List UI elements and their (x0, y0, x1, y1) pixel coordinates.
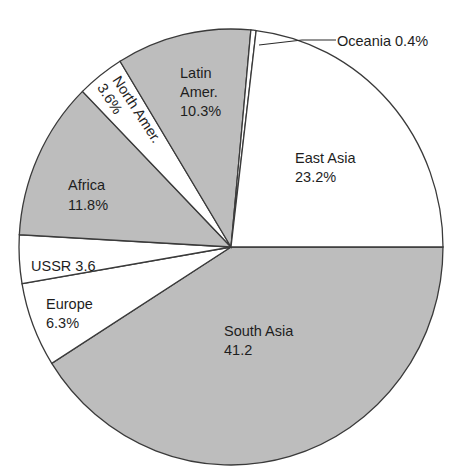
svg-text:Oceania 0.4%: Oceania 0.4% (337, 33, 428, 49)
svg-text:23.2%: 23.2% (295, 169, 336, 185)
svg-text:East Asia: East Asia (295, 150, 356, 166)
svg-text:Africa: Africa (68, 177, 106, 193)
pie-chart: Latin Amer. 10.3% North Amer. 3.6% Afric… (0, 0, 459, 476)
pie-slice-east-asia (231, 31, 443, 247)
svg-text:41.2: 41.2 (224, 342, 252, 358)
svg-text:Amer.: Amer. (180, 84, 218, 100)
svg-text:Europe: Europe (46, 296, 93, 312)
svg-text:Latin: Latin (180, 65, 211, 81)
label-ussr: USSR 3.6 (31, 258, 95, 274)
svg-text:6.3%: 6.3% (46, 315, 79, 331)
svg-text:USSR 3.6: USSR 3.6 (31, 258, 95, 274)
svg-text:South Asia: South Asia (224, 323, 294, 339)
pie-slices (19, 29, 443, 465)
svg-text:11.8%: 11.8% (68, 197, 108, 213)
svg-text:10.3%: 10.3% (180, 103, 221, 119)
